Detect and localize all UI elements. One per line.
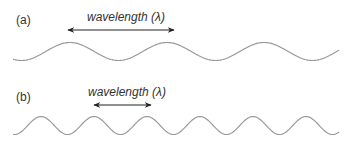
wave-figure [0,0,354,142]
wave-b [13,117,339,135]
wave-a [13,43,339,61]
